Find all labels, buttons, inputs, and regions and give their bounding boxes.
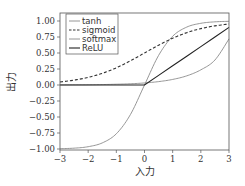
legend-label-relu: ReLU [82,43,103,53]
y-tick-label: 0.75 [36,32,55,42]
x-tick-label: 2 [198,154,203,164]
x-tick-label: −3 [54,154,67,164]
y-tick-label: 0.00 [36,80,55,90]
x-tick-label: 0 [142,154,147,164]
y-tick-label: −0.75 [29,128,55,138]
legend: tanh sigmoid softmax ReLU [66,14,118,54]
x-tick-label: 3 [226,154,231,164]
x-tick-label: −1 [110,154,123,164]
y-axis-label: 出力 [5,72,17,92]
x-tick-label: 1 [170,154,175,164]
y-tick-label: −0.50 [29,112,55,122]
y-tick-label: 0.25 [36,64,55,74]
y-axis-ticks: 1.000.750.500.250.00−0.25−0.50−0.75−1.00 [29,16,60,154]
y-tick-label: −0.25 [29,96,55,106]
x-axis-label: 入力 [135,165,155,177]
x-tick-label: −2 [82,154,95,164]
y-tick-label: 1.00 [36,16,55,26]
y-tick-label: −1.00 [29,144,55,154]
activation-function-chart: 1.000.750.500.250.00−0.25−0.50−0.75−1.00… [0,0,245,186]
y-tick-label: 0.50 [36,48,55,58]
x-axis-ticks: −3−2−10123 [54,150,232,164]
